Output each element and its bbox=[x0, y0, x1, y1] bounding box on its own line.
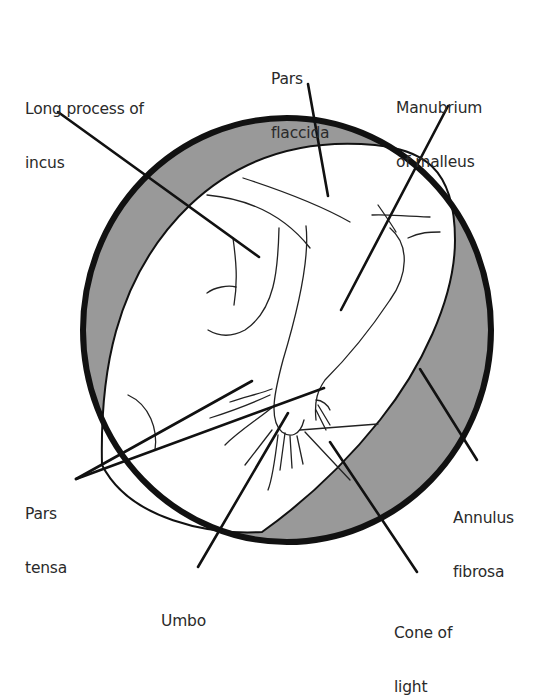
label-annulus-fibrosa: Annulus fibrosa bbox=[453, 473, 514, 599]
label-umbo: Umbo bbox=[161, 576, 206, 648]
label-pars-tensa: Pars tensa bbox=[25, 469, 67, 595]
label-pars-flaccida: Pars flaccida bbox=[271, 34, 329, 160]
label-manubrium-of-malleus: Manubrium of malleus bbox=[396, 63, 482, 189]
label-long-process-of-incus: Long process of incus bbox=[25, 64, 144, 190]
label-cone-of-light: Cone of light bbox=[394, 588, 452, 699]
